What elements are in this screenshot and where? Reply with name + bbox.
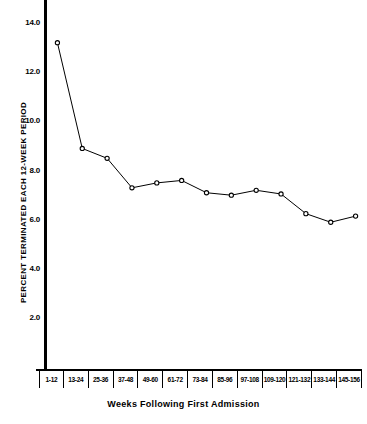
x-axis-category-label: 133-144	[312, 371, 337, 388]
data-point-marker	[329, 220, 333, 224]
x-axis-category-label: 13-24	[64, 371, 89, 388]
x-axis-title: Weeks Following First Admission	[0, 399, 367, 409]
data-point-marker	[204, 191, 208, 195]
x-axis-category-label: 61-72	[163, 371, 188, 388]
x-axis-category-label: 97-108	[238, 371, 263, 388]
x-axis-category-label: 73-84	[188, 371, 213, 388]
data-point-marker	[279, 192, 283, 196]
data-point-marker	[180, 178, 184, 182]
data-point-marker	[55, 41, 59, 45]
data-point-marker	[80, 146, 84, 150]
data-point-marker	[155, 181, 159, 185]
x-axis-category-label: 25-36	[89, 371, 114, 388]
y-axis-tick-label: 14.0	[8, 18, 40, 27]
data-point-marker	[229, 193, 233, 197]
x-axis-category-label: 49-60	[138, 371, 163, 388]
chart-figure: 14.012.010.08.06.04.02.0 PERCENT TERMINA…	[0, 0, 367, 424]
data-point-marker	[105, 156, 109, 160]
data-point-marker	[254, 188, 258, 192]
data-point-marker	[353, 214, 357, 218]
plot-area	[47, 0, 363, 371]
x-axis-category-label: 37-48	[114, 371, 139, 388]
x-axis-category-label: 121-132	[287, 371, 312, 388]
y-axis-tick-label: 12.0	[8, 67, 40, 76]
x-axis-category-label: 1-12	[39, 371, 64, 388]
x-axis-category-labels: 1-1213-2425-3637-4849-6061-7273-8485-969…	[39, 371, 362, 388]
data-series-line	[47, 0, 363, 371]
y-axis-title: PERCENT TERMINATED EACH 12-WEEK PERIOD	[19, 88, 28, 318]
x-axis-category-label: 85-96	[213, 371, 238, 388]
x-axis-category-label: 145-156	[337, 371, 362, 388]
data-point-marker	[304, 212, 308, 216]
data-point-marker	[130, 186, 134, 190]
x-axis-category-label: 109-120	[263, 371, 288, 388]
